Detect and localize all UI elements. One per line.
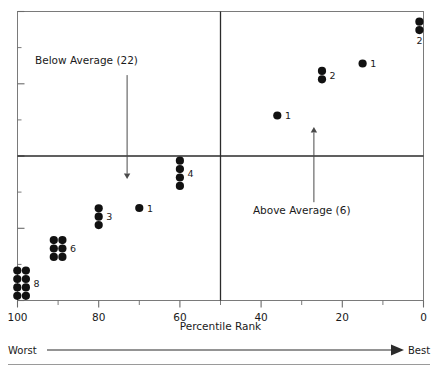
data-point-dot <box>176 157 184 165</box>
data-point-dot <box>95 213 103 221</box>
data-point-dot <box>95 204 103 212</box>
data-point-dot <box>13 275 21 283</box>
data-point-dot <box>318 67 326 75</box>
data-point-dot <box>22 267 30 275</box>
data-point-dot <box>13 292 21 300</box>
data-point-count-label: 1 <box>370 58 376 69</box>
x-axis-tick-label: 0 <box>420 311 427 323</box>
best-label: Best <box>408 345 430 356</box>
worst-label: Worst <box>8 345 37 356</box>
x-axis-tick-label: 100 <box>7 311 27 323</box>
percentile-rank-scatter-figure: Below Average (22)Above Average (6) 8631… <box>0 0 438 366</box>
data-point-dot <box>176 165 184 173</box>
x-axis-tick-label: 20 <box>336 311 349 323</box>
data-point-count-label: 8 <box>34 278 40 289</box>
direction-arrowhead-icon <box>391 345 404 356</box>
data-point-dot <box>50 253 58 261</box>
data-point-dot <box>22 283 30 291</box>
data-point-dot <box>22 275 30 283</box>
data-point-count-label: 2 <box>416 35 422 46</box>
data-point-dot <box>22 292 30 300</box>
data-point-count-label: 1 <box>147 203 153 214</box>
data-point-cluster: 2 <box>415 18 423 46</box>
data-point-count-label: 4 <box>188 168 194 179</box>
x-axis-ticks <box>18 301 424 308</box>
data-point-dot <box>359 59 367 67</box>
direction-scale: Worst Best <box>8 345 430 356</box>
data-point-count-label: 3 <box>106 211 112 222</box>
data-point-dot <box>135 204 143 212</box>
data-point-dot <box>176 182 184 190</box>
data-point-dot <box>415 26 423 34</box>
annotation-text: Above Average (6) <box>253 204 351 216</box>
x-axis-title: Percentile Rank <box>180 320 262 332</box>
data-point-dot <box>318 75 326 83</box>
chart-canvas: Below Average (22)Above Average (6) 8631… <box>0 0 438 366</box>
data-point-dot <box>58 244 66 252</box>
data-point-count-label: 6 <box>70 243 76 254</box>
data-point-dot <box>58 236 66 244</box>
data-point-dot <box>95 221 103 229</box>
data-point-dot <box>176 173 184 181</box>
data-point-count-label: 1 <box>285 110 291 121</box>
data-point-dot <box>50 236 58 244</box>
data-point-dot <box>58 253 66 261</box>
data-point-dot <box>13 267 21 275</box>
data-point-dot <box>50 244 58 252</box>
data-point-dot <box>273 111 281 119</box>
x-axis-tick-label: 80 <box>92 311 105 323</box>
data-point-dot <box>13 283 21 291</box>
data-point-count-label: 2 <box>330 70 336 81</box>
data-point-dot <box>415 18 423 26</box>
annotation-text: Below Average (22) <box>35 54 138 66</box>
